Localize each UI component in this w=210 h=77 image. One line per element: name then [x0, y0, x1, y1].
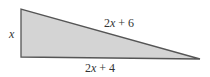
triangle-diagram: x 2x + 6 2x + 4: [0, 0, 210, 77]
hypotenuse-label: 2x + 6: [104, 17, 134, 29]
vertical-leg-label: x: [9, 28, 14, 40]
horizontal-leg-label: 2x + 4: [85, 62, 115, 74]
